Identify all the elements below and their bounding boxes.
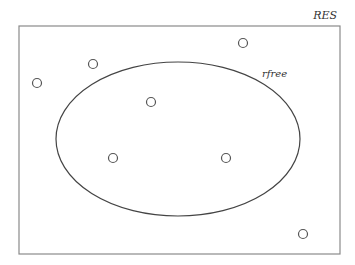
- point-marker-icon: [299, 230, 308, 239]
- res-set-boundary: [19, 26, 340, 254]
- point-marker-icon: [33, 79, 42, 88]
- point-marker-icon: [147, 98, 156, 107]
- set-diagram: RES rfree: [0, 0, 355, 265]
- rfree-set-boundary: [56, 62, 300, 216]
- point-marker-icon: [89, 60, 98, 69]
- point-marker-icon: [222, 154, 231, 163]
- point-marker-icon: [109, 154, 118, 163]
- res-set-label: RES: [312, 9, 337, 22]
- point-marker-icon: [239, 39, 248, 48]
- rfree-set-label: rfree: [262, 68, 287, 79]
